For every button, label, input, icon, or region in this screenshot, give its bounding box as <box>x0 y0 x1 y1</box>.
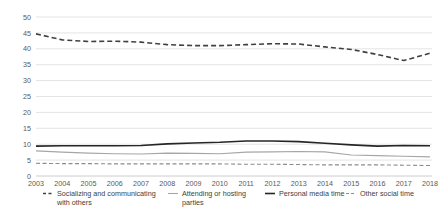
x-axis-tick-label: 2014 <box>317 179 333 188</box>
line-chart-plot: 05101520253035404550 2003200420052006200… <box>0 0 446 219</box>
legend-label-0-line2[interactable]: with others <box>56 198 92 207</box>
legend-label-2[interactable]: Personal media time <box>279 189 345 198</box>
legend-label-0[interactable]: Socializing and communicating <box>57 189 156 198</box>
legend-label-1[interactable]: Attending or hosting <box>182 189 246 198</box>
x-axis-tick-label: 2006 <box>107 179 123 188</box>
x-axis-tick-label: 2005 <box>81 179 97 188</box>
x-axis-tick-label: 2017 <box>396 179 412 188</box>
y-axis-tick-label: 35 <box>23 60 31 69</box>
y-axis-tick-label: 30 <box>23 76 31 85</box>
y-axis-tick-label: 5 <box>27 156 31 165</box>
x-axis-tick-label: 2010 <box>212 179 228 188</box>
series-line-1 <box>36 151 430 157</box>
chart-container: 05101520253035404550 2003200420052006200… <box>0 0 446 219</box>
x-axis-tick-label: 2011 <box>238 179 253 188</box>
x-axis-tick-label: 2003 <box>28 179 44 188</box>
y-axis-tick-label: 25 <box>23 92 31 101</box>
x-axis-tick-label: 2015 <box>343 179 359 188</box>
x-axis-tick-label: 2016 <box>369 179 385 188</box>
x-axis-tick-label: 2009 <box>186 179 202 188</box>
legend-label-3[interactable]: Other social time <box>360 189 414 198</box>
x-axis-tick-labels: 2003200420052006200720082009201020112012… <box>28 179 438 188</box>
y-axis-tick-label: 20 <box>23 108 31 117</box>
y-axis-tick-labels: 05101520253035404550 <box>23 13 31 181</box>
chart-legend: Socializing and communicatingwith others… <box>43 189 414 207</box>
y-axis-tick-label: 10 <box>23 140 31 149</box>
y-axis-tick-label: 15 <box>23 124 31 133</box>
y-axis-tick-label: 45 <box>23 29 31 38</box>
series-line-0 <box>36 34 430 61</box>
x-axis-tick-label: 2012 <box>264 179 280 188</box>
x-axis-tick-label: 2007 <box>133 179 149 188</box>
series-line-2 <box>36 141 430 146</box>
x-axis-tick-label: 2018 <box>422 179 438 188</box>
y-axis-tick-label: 40 <box>23 44 31 53</box>
y-axis-tick-label: 50 <box>23 13 31 22</box>
x-axis-tick-label: 2008 <box>159 179 175 188</box>
x-axis-tick-label: 2004 <box>54 179 70 188</box>
series-line-3 <box>36 163 430 165</box>
data-series-lines <box>36 34 430 166</box>
legend-label-1-line2[interactable]: parties <box>182 198 204 207</box>
x-axis-tick-label: 2013 <box>291 179 307 188</box>
